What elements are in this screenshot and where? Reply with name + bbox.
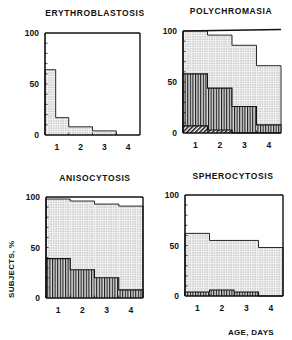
bar <box>45 70 56 135</box>
x-tick-label: 2 <box>217 140 222 150</box>
x-tick-label: 4 <box>268 303 273 313</box>
y-tick-label: 0 <box>174 291 179 301</box>
bar <box>232 106 257 133</box>
bar <box>185 233 210 296</box>
y-tick-label: 0 <box>34 130 39 140</box>
y-tick-label: 100 <box>26 192 40 202</box>
series-dotted <box>185 233 283 296</box>
y-tick-label: 100 <box>25 28 39 38</box>
y-tick-label: 100 <box>163 26 177 36</box>
y-tick-label: 0 <box>35 293 40 303</box>
bar <box>46 259 70 298</box>
bar <box>208 88 233 133</box>
x-tick-label: 1 <box>193 140 198 150</box>
bar <box>69 127 93 135</box>
x-tick-label: 3 <box>102 142 107 152</box>
x-tick-label: 4 <box>266 140 271 150</box>
x-tick-label: 1 <box>56 305 61 315</box>
x-tick-label: 1 <box>195 303 200 313</box>
bar <box>210 290 235 296</box>
bar <box>257 66 282 133</box>
x-tick-label: 2 <box>78 142 83 152</box>
x-axis-label: AGE, DAYS <box>228 328 274 337</box>
bar <box>119 206 143 298</box>
panel-title: ANISOCYTOSIS <box>59 173 130 183</box>
panel-spherocytosis: SPHEROCYTOSIS0501001234 <box>165 171 283 313</box>
bar <box>70 270 94 298</box>
histogram-figure: ERYTHROBLASTOSIS0501001234 POLYCHROMASIA… <box>0 0 292 340</box>
bar <box>56 118 69 135</box>
bar <box>234 240 259 296</box>
x-tick-label: 4 <box>126 142 131 152</box>
series-dotted <box>45 70 116 135</box>
y-tick-label: 50 <box>31 243 41 253</box>
y-tick-label: 50 <box>170 241 180 251</box>
x-tick-label: 3 <box>242 140 247 150</box>
bar <box>183 126 208 133</box>
panel-title: ERYTHROBLASTOSIS <box>45 8 144 18</box>
x-tick-label: 2 <box>80 305 85 315</box>
panel-anisocytosis: ANISOCYTOSIS0501001234 <box>26 173 143 315</box>
x-tick-label: 3 <box>244 303 249 313</box>
y-tick-label: 50 <box>30 79 40 89</box>
bar <box>259 248 284 296</box>
bar <box>95 278 119 298</box>
bar <box>257 125 282 133</box>
x-tick-label: 1 <box>55 142 60 152</box>
panel-title: SPHEROCYTOSIS <box>193 171 274 181</box>
panel-title: POLYCHROMASIA <box>190 6 273 16</box>
panel-erythroblastosis: ERYTHROBLASTOSIS0501001234 <box>25 8 145 152</box>
bar <box>183 74 208 133</box>
bar <box>210 240 235 296</box>
x-tick-label: 3 <box>104 305 109 315</box>
y-tick-label: 0 <box>172 128 177 138</box>
panel-polychromasia: POLYCHROMASIA0501001234 <box>163 6 281 150</box>
y-axis-label: SUBJECTS, % <box>7 240 16 298</box>
y-tick-label: 50 <box>168 77 178 87</box>
bar <box>119 290 143 298</box>
x-tick-label: 2 <box>219 303 224 313</box>
y-tick-label: 100 <box>165 190 179 200</box>
x-tick-label: 4 <box>129 305 134 315</box>
